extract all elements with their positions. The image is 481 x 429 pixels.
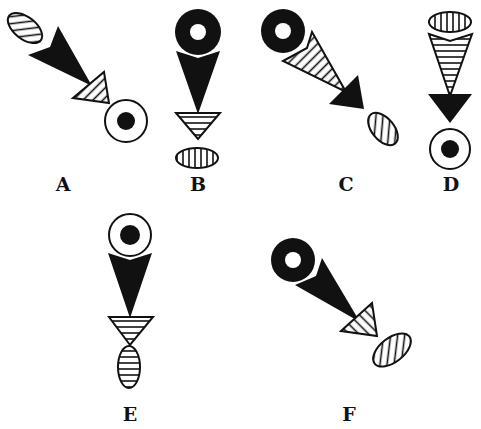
hatched-ellipse-icon — [362, 107, 403, 150]
black-triangle-icon — [428, 94, 472, 123]
option-label: D — [443, 173, 459, 195]
target-dot-icon — [120, 225, 140, 245]
option-label: C — [338, 173, 353, 195]
hatched-triangle-icon — [176, 113, 220, 139]
option-c[interactable]: C — [261, 9, 404, 195]
black-triangle-icon — [176, 51, 220, 114]
target-dot-icon — [441, 140, 459, 158]
donut-hole-icon — [275, 23, 291, 39]
option-b[interactable]: B — [175, 9, 221, 195]
donut-hole-icon — [285, 252, 301, 268]
hatched-ellipse-icon — [2, 7, 47, 49]
option-f[interactable]: F — [271, 238, 417, 425]
option-label: B — [190, 173, 206, 195]
option-label: F — [342, 403, 356, 425]
hatched-triangle-icon — [109, 317, 153, 345]
hatched-ellipse-icon — [429, 12, 471, 32]
option-e[interactable]: E — [108, 214, 153, 425]
target-dot-icon — [117, 112, 135, 130]
option-label: A — [55, 173, 71, 195]
donut-hole-icon — [190, 24, 206, 40]
hatched-ellipse-icon — [118, 346, 140, 388]
options-figure: A B C D E — [0, 0, 481, 429]
option-d[interactable]: D — [428, 12, 472, 195]
option-a[interactable]: A — [2, 7, 147, 195]
hatched-triangle-icon — [429, 34, 472, 96]
hatched-ellipse-icon — [176, 148, 218, 168]
black-triangle-icon — [108, 253, 152, 318]
option-label: E — [123, 403, 137, 425]
